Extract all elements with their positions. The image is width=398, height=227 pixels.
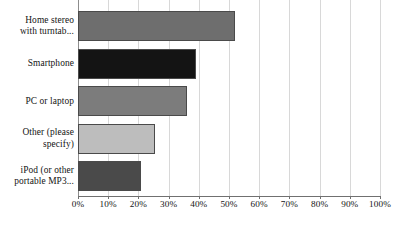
- bar-pc-or-laptop: [78, 86, 187, 116]
- tick-mark-100%: [380, 196, 381, 199]
- tick-mark-80%: [320, 196, 321, 199]
- x-tick-label-100%: 100%: [357, 198, 398, 211]
- bar-smartphone: [78, 49, 196, 79]
- tick-mark-60%: [259, 196, 260, 199]
- x-axis: 0%10%20%30%40%50%60%70%80%90%100%: [0, 198, 398, 218]
- bar-other: [78, 124, 155, 154]
- tick-mark-0%: [78, 196, 79, 199]
- horizontal-bar-chart: Home stereo with turntab... Smartphone P…: [0, 0, 398, 227]
- bar-home-stereo: [78, 11, 235, 41]
- bar-series: [78, 0, 380, 196]
- category-label-4: iPod (or other portable MP3...: [0, 165, 74, 188]
- tick-mark-30%: [169, 196, 170, 199]
- category-label-3: Other (please specify): [0, 127, 74, 150]
- category-label-1: Smartphone: [0, 58, 74, 69]
- tick-mark-20%: [138, 196, 139, 199]
- tick-mark-10%: [108, 196, 109, 199]
- plot-area: [78, 0, 380, 196]
- category-axis: Home stereo with turntab... Smartphone P…: [0, 0, 74, 196]
- category-label-2: PC or laptop: [0, 96, 74, 107]
- gridline-100%: [380, 0, 381, 196]
- tick-mark-70%: [289, 196, 290, 199]
- tick-mark-90%: [350, 196, 351, 199]
- tick-mark-50%: [229, 196, 230, 199]
- bar-ipod: [78, 161, 141, 191]
- category-label-0: Home stereo with turntab...: [0, 15, 74, 38]
- tick-mark-40%: [199, 196, 200, 199]
